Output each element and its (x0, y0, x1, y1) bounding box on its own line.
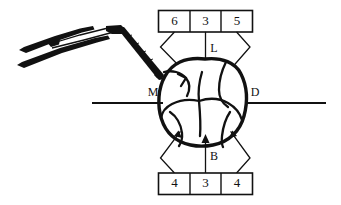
top-measurement-box[interactable]: 6 3 5 (159, 11, 253, 33)
bottom-cell-value-3: 4 (234, 175, 241, 190)
label-distal: D (251, 85, 260, 99)
probe-tip-highlight (123, 32, 155, 71)
label-mesial: M (148, 85, 159, 99)
label-buccal: B (210, 149, 218, 163)
bottom-right-arrow-line (231, 132, 250, 173)
top-cell-value-1: 6 (171, 13, 178, 28)
bottom-cell-value-2: 3 (202, 175, 209, 190)
dental-probing-figure: 6 3 5 L (0, 0, 341, 205)
bottom-measurement-box[interactable]: 4 3 4 (159, 173, 253, 195)
label-lingual: L (210, 41, 217, 55)
top-cell-value-3: 5 (234, 13, 241, 28)
bottom-cell-value-1: 4 (171, 175, 178, 190)
periodontal-probe-instrument (17, 25, 164, 80)
top-cell-value-2: 3 (202, 13, 209, 28)
